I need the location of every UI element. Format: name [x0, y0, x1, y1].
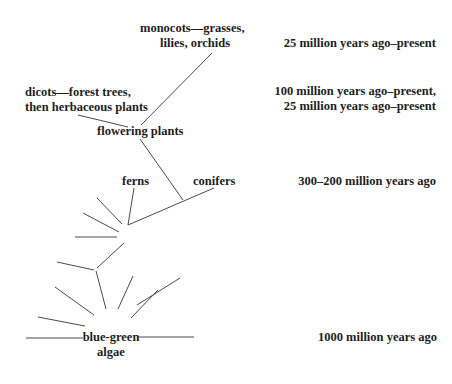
label-blue-green-algae: blue-green algae — [81, 330, 141, 360]
tree-branches — [0, 0, 452, 384]
spoke — [118, 276, 133, 309]
label-dicots: dicots—forest trees, then herbaceous pla… — [25, 85, 148, 115]
time-monocots: 25 million years ago–present — [240, 36, 436, 51]
label-monocots: monocots—grasses, lilies, orchids — [140, 21, 230, 51]
label-ferns: ferns — [122, 174, 149, 189]
branch-monocots — [141, 53, 212, 125]
time-dicots: 100 million years ago–present, 25 millio… — [240, 84, 436, 114]
time-algae: 1000 million years ago — [240, 330, 437, 345]
spoke — [55, 287, 94, 315]
spoke — [38, 317, 85, 326]
spoke — [57, 262, 94, 270]
spoke — [137, 278, 180, 305]
label-flowering-plants: flowering plants — [97, 124, 183, 139]
trunk-upper — [97, 243, 124, 268]
time-ferns-conifers: 300–200 million years ago — [240, 174, 436, 189]
trunk-lower — [96, 271, 106, 309]
branch-conifers — [128, 188, 214, 225]
spoke — [97, 198, 122, 224]
branch-flowering — [140, 139, 183, 200]
label-conifers: conifers — [193, 174, 235, 189]
branch-ferns — [128, 188, 134, 225]
